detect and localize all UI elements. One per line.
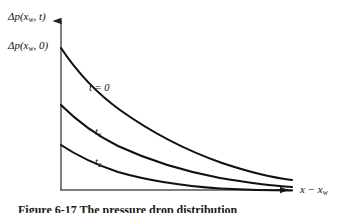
curve-label-t2-subscript: 2 xyxy=(98,161,102,169)
y-axis-label-tail: , t) xyxy=(34,10,46,22)
curve-t1 xyxy=(61,105,292,187)
curve-label-t2: t2 xyxy=(95,157,101,169)
y-intercept-label-tail: , 0) xyxy=(34,39,49,51)
figure-container: Δp(xw, t) Δp(xw, 0) x − xw t = 0 t1 t2 F… xyxy=(0,0,343,213)
plot-area xyxy=(0,0,343,213)
y-axis-label: Δp(xw, t) xyxy=(8,11,46,23)
x-axis-label: x − xw xyxy=(300,184,328,196)
y-axis-label-main: Δp(x xyxy=(8,10,29,22)
curve-label-t1: t1 xyxy=(95,127,101,139)
figure-caption: Figure 6-17 The pressure drop distributi… xyxy=(18,203,338,213)
curve-label-t0-main: t = 0 xyxy=(89,82,110,93)
curve-label-t0: t = 0 xyxy=(89,83,110,95)
x-axis-label-main: x − x xyxy=(300,183,323,195)
x-axis-label-subscript: w xyxy=(323,188,328,197)
y-intercept-label-main: Δp(x xyxy=(8,39,29,51)
y-intercept-label: Δp(xw, 0) xyxy=(8,40,48,52)
curve-label-t1-subscript: 1 xyxy=(98,131,102,139)
